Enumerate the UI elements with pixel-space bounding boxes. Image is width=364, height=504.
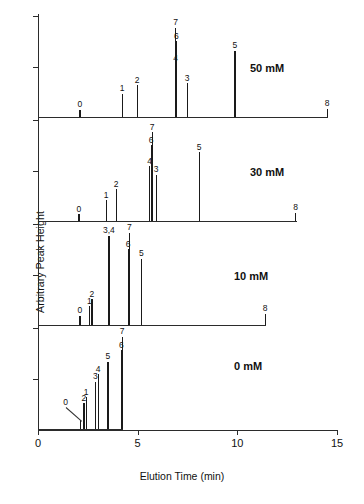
y-axis-line (38, 118, 39, 222)
concentration-label: 0 mM (234, 360, 262, 372)
peak (83, 403, 84, 429)
peak-label: 0 (71, 306, 89, 315)
peak-label: 5 (132, 249, 150, 258)
peak-label: 8 (318, 99, 336, 108)
peak (98, 374, 99, 429)
peak-label: 8 (287, 203, 305, 212)
peak-label: 0 (70, 205, 88, 214)
peak-label: 3 (147, 165, 165, 174)
peak-label: 0 (57, 398, 75, 407)
y-axis-tick (33, 224, 39, 225)
peak-label: 3 (178, 74, 196, 83)
peak (152, 132, 153, 221)
peak (107, 362, 108, 429)
peak (78, 214, 79, 221)
label-leader-line (65, 407, 82, 422)
peak (91, 299, 92, 325)
chromatogram-panel: 01246735830 mM (38, 118, 337, 222)
x-axis-tick (138, 430, 139, 435)
peak (86, 397, 87, 429)
peak (137, 85, 138, 117)
peak (129, 233, 130, 325)
y-axis-tick (33, 275, 39, 276)
peak-label: 4 (89, 365, 107, 374)
peak (175, 28, 176, 117)
y-axis-line (38, 222, 39, 326)
peak-label: 2 (83, 290, 101, 299)
peak-label: 1 (113, 84, 131, 93)
x-axis-tick (237, 430, 238, 435)
peak (95, 382, 96, 429)
y-axis-tick (33, 171, 39, 172)
chromatogram-panel: 0123,4675810 mM (38, 222, 337, 326)
peak (79, 110, 80, 117)
peak-label: 5 (99, 352, 117, 361)
peak-label: 7 (113, 327, 131, 336)
peak-label: 7 (143, 123, 161, 132)
peak-label: 7 (167, 18, 185, 27)
peak (199, 152, 200, 221)
peak-label: 0 (71, 100, 89, 109)
x-axis-label: Elution Time (min) (0, 470, 364, 482)
x-axis-tick-label: 15 (322, 437, 352, 449)
peak (141, 259, 142, 325)
y-axis-line (38, 326, 39, 430)
peak (122, 337, 123, 429)
peak (187, 83, 188, 117)
x-axis-tick (337, 430, 338, 435)
peak (106, 200, 107, 221)
y-axis-tick (33, 16, 39, 17)
peak-label: 1 (97, 191, 115, 200)
peak (295, 213, 296, 221)
peak-label: 5 (190, 143, 208, 152)
chromatogram-figure: Arbitrary Peak Height 01246735850 mM0124… (0, 0, 364, 504)
y-axis-tick (33, 67, 39, 68)
chromatogram-panel: 01246735850 mM (38, 14, 337, 118)
peak (108, 236, 109, 325)
peak (156, 175, 157, 221)
y-axis-line (38, 14, 39, 118)
peak-label: 7 (120, 223, 138, 232)
peak-label: 8 (256, 304, 274, 313)
peak (116, 189, 117, 221)
peak-label: 2 (128, 76, 146, 85)
x-axis-tick-label: 5 (123, 437, 153, 449)
concentration-label: 10 mM (234, 270, 268, 282)
peak-label: 1 (77, 388, 95, 397)
peak-label: 5 (226, 41, 244, 50)
x-axis-tick (38, 430, 39, 435)
concentration-label: 30 mM (250, 166, 284, 178)
peak (122, 94, 123, 117)
peak-label: 3,4 (100, 226, 118, 235)
x-axis-line (38, 430, 337, 431)
concentration-label: 50 mM (250, 62, 284, 74)
peak (234, 51, 235, 117)
peak (327, 109, 328, 117)
y-axis-tick (33, 379, 39, 380)
peak-label: 6 (167, 32, 185, 41)
peak (89, 306, 90, 325)
panel-stack: 01246735850 mM01246735830 mM0123,4675810… (38, 14, 337, 430)
y-axis-tick (33, 328, 39, 329)
peak (265, 314, 266, 325)
peak (79, 316, 80, 325)
chromatogram-panel: 021345670 mM (38, 326, 337, 430)
x-axis-tick-label: 10 (222, 437, 252, 449)
peak-label: 2 (107, 180, 125, 189)
y-axis-tick (33, 120, 39, 121)
x-axis-tick-label: 0 (23, 437, 53, 449)
